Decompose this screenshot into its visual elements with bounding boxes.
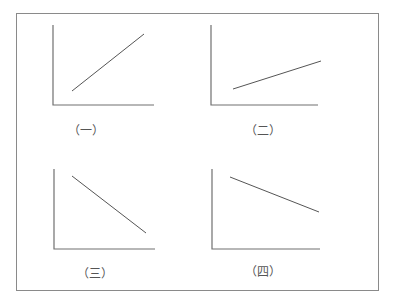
graph-panel-4 xyxy=(212,169,320,249)
panel-label-1: （一） xyxy=(68,121,104,138)
panel-label-3: （三） xyxy=(77,264,113,281)
axes xyxy=(211,25,318,105)
panel-label-4: （四） xyxy=(245,262,281,279)
trend-line-increasing-steep xyxy=(72,34,144,91)
graph-panel-2 xyxy=(211,25,321,105)
trend-line-decreasing-gentle xyxy=(230,177,319,212)
panel-label-2: （二） xyxy=(245,121,281,138)
axes xyxy=(212,169,320,249)
trend-line-decreasing-steep xyxy=(72,176,146,233)
axes xyxy=(53,25,154,105)
graph-panel-3 xyxy=(54,169,155,249)
axes xyxy=(54,169,155,249)
trend-line-increasing-gentle xyxy=(233,61,321,89)
graphs-canvas xyxy=(0,0,395,306)
graph-panel-1 xyxy=(53,25,154,105)
